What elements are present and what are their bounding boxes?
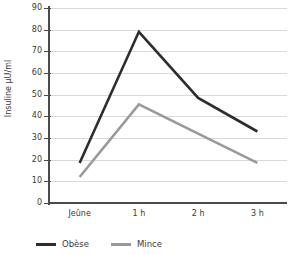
y-axis-tick-label: 90 [0, 4, 42, 12]
y-axis-tick [44, 138, 51, 139]
gridline [49, 73, 287, 74]
legend-swatch-icon [111, 243, 131, 246]
y-axis-tick [44, 30, 51, 31]
y-axis-tick [44, 73, 51, 74]
gridline [49, 138, 287, 139]
y-axis-tick [44, 8, 51, 9]
y-axis-tick [44, 160, 51, 161]
gridline [49, 181, 287, 182]
x-axis-tick-label: 1 h [112, 209, 166, 218]
legend-swatch-icon [36, 243, 56, 246]
gridline [49, 30, 287, 31]
gridline [49, 51, 287, 52]
y-axis-tick-label: 10 [0, 177, 42, 185]
legend-item[interactable]: Mince [111, 240, 162, 249]
y-axis-tick [44, 95, 51, 96]
gridline [49, 95, 287, 96]
gridline [49, 8, 287, 9]
legend-item[interactable]: Obèse [36, 240, 89, 249]
gridline [49, 160, 287, 161]
insulin-response-line-chart: 9080706050403020100 Insuline µU/ml Jeûne… [0, 0, 299, 255]
x-axis-tick-label: 2 h [171, 209, 225, 218]
legend-label: Mince [137, 240, 162, 249]
y-axis-tick [44, 203, 51, 204]
chart-legend: ObèseMince [0, 234, 299, 254]
plot-area [49, 8, 287, 203]
x-axis-tick-label: 3 h [230, 209, 284, 218]
y-axis-title: Insuline µU/ml [4, 29, 13, 149]
y-axis-tick-label: 0 [0, 199, 42, 207]
x-axis-line [48, 202, 287, 204]
y-axis-tick [44, 181, 51, 182]
y-axis-tick [44, 116, 51, 117]
y-axis-tick-label: 20 [0, 156, 42, 164]
y-axis-line [48, 6, 50, 205]
legend-label: Obèse [62, 240, 89, 249]
x-axis-tick-label: Jeûne [53, 209, 107, 218]
y-axis-tick [44, 51, 51, 52]
gridline [49, 116, 287, 117]
